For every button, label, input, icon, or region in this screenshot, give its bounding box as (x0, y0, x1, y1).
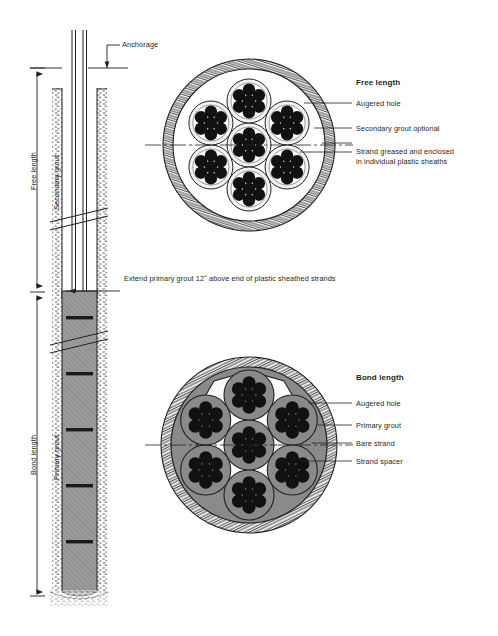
profile-view (30, 30, 128, 606)
anchor-diagram: Anchorage Free length Secondary grout Bo… (0, 0, 498, 636)
bare-strand (267, 445, 317, 495)
free-callout-strand-greased-line2: in individual plastic sheaths (356, 157, 447, 167)
bare-strand (267, 395, 317, 445)
sheathed-strand (189, 101, 233, 145)
bare-strand (224, 370, 274, 420)
bond-callout-bare-strand: Bare strand (356, 439, 395, 449)
free-callout-augered-hole: Augered hole (356, 99, 401, 109)
bond-callout-strand-spacer: Strand spacer (356, 457, 403, 467)
sheathed-strand (189, 145, 233, 189)
anchorage-label: Anchorage (122, 40, 158, 50)
bond-section-heading: Bond length (356, 373, 404, 383)
bond-length-cross-section (145, 357, 353, 533)
augered-hole-walls-free (62, 88, 97, 298)
free-callout-strand-greased: Strand greased and enclosed (356, 147, 454, 157)
bare-strand (181, 445, 231, 495)
bare-strand (181, 395, 231, 445)
break-symbol (50, 208, 108, 230)
free-length-cross-section (145, 59, 353, 231)
bond-callout-augered-hole: Augered hole (356, 399, 401, 409)
sheathed-strand (227, 167, 271, 211)
free-section-heading: Free length (356, 78, 400, 88)
free-length-label: Free length (29, 152, 38, 190)
bond-length-label: Bond length (29, 435, 38, 475)
diagram-canvas (0, 0, 498, 636)
bond-callout-primary-grout: Primary grout (356, 421, 401, 431)
secondary-grout-label: Secondary grout (52, 155, 61, 210)
free-callout-secondary-grout: Secondary grout optional (356, 124, 440, 134)
extend-grout-note: Extend primary grout 12ʺ above end of pl… (124, 274, 336, 284)
primary-grout-label: Primary grout (52, 435, 61, 480)
anchorage-leader (30, 45, 128, 68)
sheathed-strand (227, 79, 271, 123)
bare-strand (224, 470, 274, 520)
sheathed-strand (265, 101, 309, 145)
